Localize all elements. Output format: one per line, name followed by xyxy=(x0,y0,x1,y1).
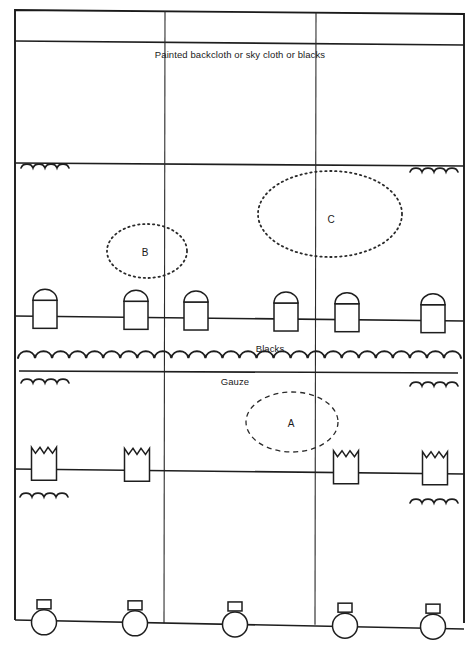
spotlight-body xyxy=(335,304,359,332)
area-a-label: A xyxy=(288,418,295,429)
spotlight-lens-icon xyxy=(335,293,359,304)
spotlight-unit xyxy=(124,290,148,329)
footlight-cap xyxy=(128,601,142,610)
spotlight-unit xyxy=(335,293,359,332)
floodlight-icon xyxy=(32,447,57,480)
gauze-label: Gauze xyxy=(221,376,250,387)
spot-bar-1-pipe xyxy=(15,316,464,321)
spotlight-body xyxy=(274,303,298,331)
footlight-unit xyxy=(421,604,446,639)
gauze-line xyxy=(19,371,458,373)
drapes xyxy=(18,164,461,503)
spotlight-unit xyxy=(33,289,57,328)
spot-bar-1 xyxy=(15,289,464,332)
spotlight-lens-icon xyxy=(124,290,148,301)
floodlight-icon xyxy=(423,452,448,485)
footlights xyxy=(15,600,464,639)
spotlight-unit xyxy=(184,291,208,330)
spotlight-lens-icon xyxy=(274,292,298,303)
spotlight-lens-icon xyxy=(33,289,57,300)
flood-bar-2 xyxy=(15,447,464,484)
floodlight-unit xyxy=(334,451,359,484)
floodlight-icon xyxy=(125,448,150,481)
spotlight-lens-icon xyxy=(184,291,208,302)
footlight-cap xyxy=(228,602,242,611)
diagram-canvas xyxy=(0,0,472,654)
spotlight-lens-icon xyxy=(421,294,445,305)
backcloth-label: Painted backcloth or sky cloth or blacks xyxy=(155,49,325,60)
footlight-unit xyxy=(123,601,148,636)
footlight-bulb-icon xyxy=(421,614,446,639)
blacks-label: Blacks xyxy=(256,343,285,354)
spotlight-unit xyxy=(421,294,445,333)
footlight-unit xyxy=(223,602,248,637)
footlight-bulb-icon xyxy=(223,612,248,637)
masking-wave-4 xyxy=(410,382,458,386)
spotlight-body xyxy=(421,305,445,333)
backcloth-line xyxy=(15,163,464,166)
spotlight-body xyxy=(184,302,208,330)
area-c-label: C xyxy=(327,214,334,225)
floodlight-unit xyxy=(125,448,150,481)
area-b-label: B xyxy=(142,247,149,258)
footlight-bulb-icon xyxy=(333,613,358,638)
stage-plan-diagram: Painted backcloth or sky cloth or blacks… xyxy=(0,0,472,654)
footlight-cap xyxy=(37,600,51,609)
spotlight-body xyxy=(33,300,57,328)
spotlight-body xyxy=(124,301,148,329)
masking-wave-2 xyxy=(410,168,458,172)
footlight-unit xyxy=(32,600,57,635)
masking-wave-5 xyxy=(20,493,68,497)
masking-wave-3 xyxy=(21,379,69,383)
footlight-bulb-icon xyxy=(32,610,57,635)
masking-wave-6 xyxy=(410,499,458,503)
footlight-cap xyxy=(426,604,440,613)
footlight-bulb-icon xyxy=(123,611,148,636)
footlight-cap xyxy=(338,603,352,612)
floodlight-unit xyxy=(423,452,448,485)
lighting-bars xyxy=(15,289,464,639)
spotlight-unit xyxy=(274,292,298,331)
blacks-drape xyxy=(18,351,461,358)
masking-wave-1 xyxy=(21,164,69,168)
flood-bar-2-pipe xyxy=(15,469,464,474)
footlight-unit xyxy=(333,603,358,638)
pelmet-line xyxy=(15,41,464,45)
floodlight-icon xyxy=(334,451,359,484)
floodlight-unit xyxy=(32,447,57,480)
